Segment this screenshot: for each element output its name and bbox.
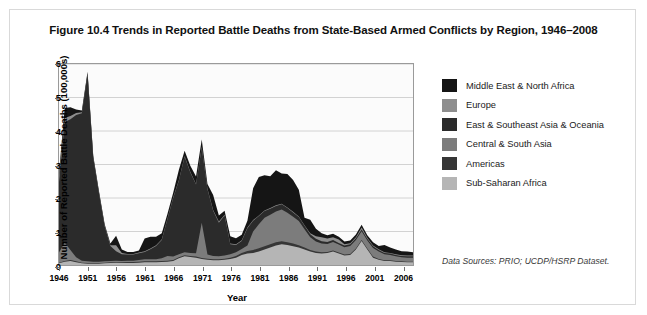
legend-swatch-icon <box>442 99 457 112</box>
x-tick-mark <box>88 267 89 271</box>
y-tick-mark <box>55 233 59 234</box>
x-tick-mark <box>174 267 175 271</box>
legend-swatch-icon <box>442 157 457 170</box>
plot-frame: Number of Reported Battle Deaths (100,00… <box>58 63 414 266</box>
x-tick-mark <box>375 267 376 271</box>
legend-item-label: Middle East & North Africa <box>466 81 575 91</box>
x-tick-mark <box>260 267 261 271</box>
legend-item-label: Europe <box>466 100 496 110</box>
page-title: Figure 10.4 Trends in Reported Battle De… <box>10 24 637 36</box>
data-sources-note: Data Sources: PRIO; UCDP/HSRP Dataset. <box>442 256 642 266</box>
figure-card: Figure 10.4 Trends in Reported Battle De… <box>9 9 636 305</box>
x-tick-mark <box>289 267 290 271</box>
legend-item: Central & South Asia <box>442 135 632 155</box>
legend-item-label: East & Southeast Asia & Oceania <box>466 120 604 130</box>
legend-item: Middle East & North Africa <box>442 76 632 96</box>
x-tick-mark <box>231 267 232 271</box>
x-tick-label: 2006 <box>384 273 424 283</box>
y-tick-mark <box>55 98 59 99</box>
legend-swatch-icon <box>442 138 457 151</box>
legend-item: Sub-Saharan Africa <box>442 174 632 194</box>
legend-swatch-icon <box>442 79 457 92</box>
legend-item: Europe <box>442 96 632 116</box>
y-tick-mark <box>55 64 59 65</box>
y-tick-mark <box>55 132 59 133</box>
stacked-area-series <box>59 64 413 265</box>
chart-legend: Middle East & North AfricaEuropeEast & S… <box>442 76 632 193</box>
x-tick-mark <box>404 267 405 271</box>
legend-item: Americas <box>442 154 632 174</box>
legend-item: East & Southeast Asia & Oceania <box>442 115 632 135</box>
legend-item-label: Central & South Asia <box>466 139 552 149</box>
legend-item-label: Sub-Saharan Africa <box>466 178 547 188</box>
legend-swatch-icon <box>442 177 457 190</box>
x-tick-mark <box>116 267 117 271</box>
y-tick-mark <box>55 166 59 167</box>
y-tick-mark <box>55 199 59 200</box>
x-tick-mark <box>145 267 146 271</box>
x-tick-mark <box>59 267 60 271</box>
x-tick-mark <box>203 267 204 271</box>
x-tick-mark <box>317 267 318 271</box>
x-axis-title: Year <box>59 292 415 303</box>
legend-swatch-icon <box>442 118 457 131</box>
x-tick-mark <box>346 267 347 271</box>
legend-item-label: Americas <box>466 159 505 169</box>
